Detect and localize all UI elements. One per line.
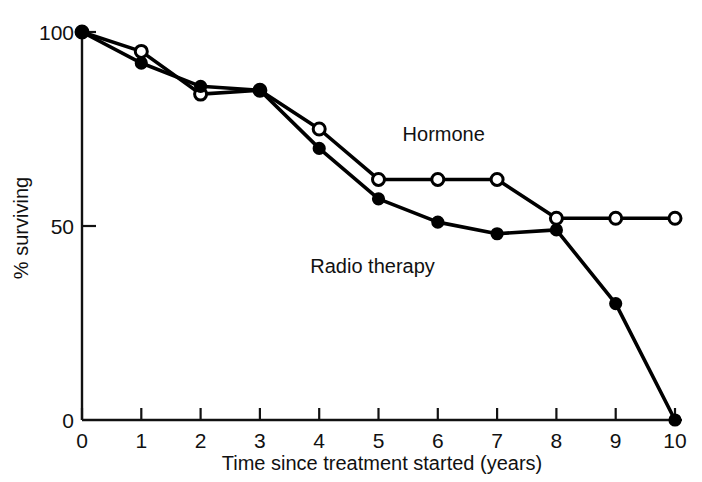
data-point-filled xyxy=(669,414,680,425)
y-tick-label: 0 xyxy=(62,409,74,432)
x-tick-label: 10 xyxy=(663,429,686,452)
data-point-filled xyxy=(136,57,147,68)
data-point-open xyxy=(135,45,147,57)
x-tick-label: 1 xyxy=(135,429,147,452)
data-point-filled xyxy=(551,224,562,235)
data-point-filled xyxy=(254,85,265,96)
x-tick-label: 7 xyxy=(491,429,503,452)
x-tick-label: 5 xyxy=(373,429,385,452)
x-tick-label: 8 xyxy=(551,429,563,452)
y-tick-label: 50 xyxy=(51,215,74,238)
x-tick-label: 2 xyxy=(195,429,207,452)
y-axis-title: % surviving xyxy=(10,177,32,279)
chart-canvas: 012345678910 050100 HormoneRadio therapy… xyxy=(0,0,702,482)
data-point-open xyxy=(610,212,622,224)
axis-lines xyxy=(82,28,682,420)
data-point-open xyxy=(432,173,444,185)
survival-chart: 012345678910 050100 HormoneRadio therapy… xyxy=(0,0,702,482)
data-point-filled xyxy=(373,193,384,204)
x-axis-tick-labels: 012345678910 xyxy=(76,429,687,452)
series-layer xyxy=(76,26,681,426)
data-point-open xyxy=(669,212,681,224)
series-line xyxy=(82,32,675,420)
data-point-filled xyxy=(314,143,325,154)
y-tick-label: 100 xyxy=(39,21,74,44)
data-point-open xyxy=(491,173,503,185)
data-point-open xyxy=(313,123,325,135)
x-tick-label: 0 xyxy=(76,429,88,452)
data-point-filled xyxy=(195,81,206,92)
data-point-filled xyxy=(610,298,621,309)
y-axis-tick-labels: 050100 xyxy=(39,21,74,432)
y-axis-ticks xyxy=(82,32,96,226)
data-point-filled xyxy=(432,217,443,228)
x-tick-label: 6 xyxy=(432,429,444,452)
x-axis-ticks xyxy=(82,408,675,420)
series-label-hormone: Hormone xyxy=(403,123,485,145)
data-point-filled xyxy=(76,26,87,37)
series-radio-therapy xyxy=(76,26,680,425)
data-point-open xyxy=(550,212,562,224)
series-label-radio-therapy: Radio therapy xyxy=(310,255,435,277)
x-tick-label: 9 xyxy=(610,429,622,452)
data-point-filled xyxy=(492,228,503,239)
data-point-open xyxy=(373,173,385,185)
x-tick-label: 4 xyxy=(313,429,325,452)
x-tick-label: 3 xyxy=(254,429,266,452)
series-line xyxy=(82,32,675,218)
x-axis-title: Time since treatment started (years) xyxy=(222,452,542,474)
